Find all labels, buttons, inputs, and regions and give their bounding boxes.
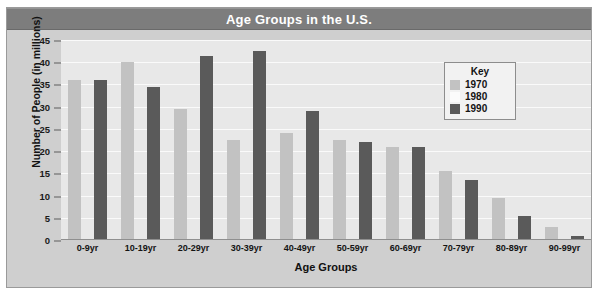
x-axis-title: Age Groups <box>61 261 591 273</box>
bar-1970-80-89yr <box>492 198 505 240</box>
bar-1970-10-19yr <box>121 62 134 240</box>
bar-1970-30-39yr <box>227 140 240 240</box>
legend: Key 197019801990 <box>444 62 516 120</box>
x-axis-tick-label: 0-9yr <box>61 243 114 253</box>
x-axis-tick-label: 20-29yr <box>167 243 220 253</box>
bar-1990-30-39yr <box>253 51 266 240</box>
y-axis-tick-label: 10 <box>3 190 61 201</box>
y-axis-tick-label: 45 <box>3 35 61 46</box>
x-axis-tick-label: 10-19yr <box>114 243 167 253</box>
y-axis-tick-label: 20 <box>3 146 61 157</box>
x-axis-tick-label: 70-79yr <box>432 243 485 253</box>
legend-title: Key <box>450 66 510 77</box>
legend-item-1970: 1970 <box>450 79 510 90</box>
legend-item-1990: 1990 <box>450 103 510 114</box>
x-axis-tick-label: 50-59yr <box>326 243 379 253</box>
chart-title-bar: Age Groups in the U.S. <box>7 8 591 30</box>
bar-1990-10-19yr <box>147 87 160 240</box>
x-axis-tick-label: 60-69yr <box>379 243 432 253</box>
legend-swatch-1970 <box>450 80 460 90</box>
bar-1970-70-79yr <box>439 171 452 240</box>
bar-1990-20-29yr <box>200 56 213 240</box>
legend-label-1990: 1990 <box>465 103 487 114</box>
legend-swatch-1990 <box>450 104 460 114</box>
x-axis-tick-label: 40-49yr <box>273 243 326 253</box>
bar-1990-60-69yr <box>412 147 425 240</box>
bar-group <box>379 40 432 240</box>
legend-label-1970: 1970 <box>465 79 487 90</box>
y-axis-tick-label: 30 <box>3 101 61 112</box>
bar-group <box>220 40 273 240</box>
bar-group <box>273 40 326 240</box>
y-axis-tick-label: 35 <box>3 79 61 90</box>
y-axis-tick-label: 40 <box>3 57 61 68</box>
bar-1970-40-49yr <box>280 133 293 240</box>
x-axis-tick-labels: 0-9yr10-19yr20-29yr30-39yr40-49yr50-59yr… <box>61 243 591 253</box>
bar-group <box>538 40 591 240</box>
bar-1970-90-99yr <box>545 227 558 240</box>
bar-group <box>326 40 379 240</box>
bar-1990-70-79yr <box>465 180 478 240</box>
bar-1990-50-59yr <box>359 142 372 240</box>
y-axis-tick-label: 0 <box>3 235 61 246</box>
bar-chart-figure: Age Groups in the U.S. Number of People … <box>0 0 598 295</box>
bar-1970-60-69yr <box>386 147 399 240</box>
bar-1970-0-9yr <box>68 80 81 240</box>
legend-item-1980: 1980 <box>450 91 510 102</box>
x-axis-tick-label: 80-89yr <box>485 243 538 253</box>
x-axis-tick-label: 30-39yr <box>220 243 273 253</box>
bar-group <box>61 40 114 240</box>
bar-group <box>167 40 220 240</box>
bar-1990-40-49yr <box>306 111 319 240</box>
legend-label-1980: 1980 <box>465 91 487 102</box>
x-axis-line <box>61 239 591 240</box>
y-axis-tick-label: 25 <box>3 123 61 134</box>
bar-1990-80-89yr <box>518 216 531 240</box>
y-axis-tick-label: 15 <box>3 168 61 179</box>
y-axis-tick-label: 5 <box>3 212 61 223</box>
bar-group <box>114 40 167 240</box>
x-axis-tick-label: 90-99yr <box>538 243 591 253</box>
bar-1990-0-9yr <box>94 80 107 240</box>
legend-swatch-1980 <box>450 92 460 102</box>
chart-title: Age Groups in the U.S. <box>226 12 372 27</box>
bar-1970-50-59yr <box>333 140 346 240</box>
legend-rows: 197019801990 <box>450 79 510 114</box>
bar-1970-20-29yr <box>174 109 187 240</box>
